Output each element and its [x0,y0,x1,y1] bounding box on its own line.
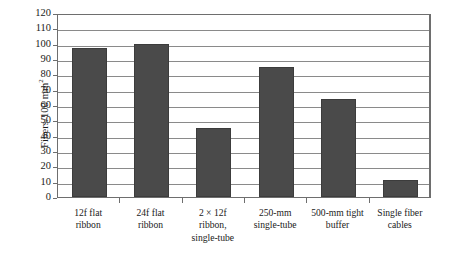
gridline [58,168,429,169]
x-tick-mark [306,198,307,203]
y-tick-mark [53,121,57,122]
y-tick-mark [53,106,57,107]
x-tick-mark [119,198,120,203]
x-tick-label: 250-mm single-tube [244,207,306,232]
y-tick-label: 100 [11,39,51,50]
y-tick-mark [53,75,57,76]
y-tick-mark [53,45,57,46]
y-tick-label: 30 [11,146,51,157]
y-tick-mark [53,152,57,153]
y-tick-mark [53,91,57,92]
y-tick-label: 120 [11,8,51,19]
y-tick-mark [53,183,57,184]
gridline [58,46,429,47]
y-tick-mark [53,60,57,61]
x-tick-mark [244,198,245,203]
plot-area [57,14,431,198]
x-tick-label: 500-mm tight buffer [306,207,368,232]
gridline [58,76,429,77]
y-tick-label: 60 [11,100,51,111]
bar [72,48,107,197]
y-tick-mark [53,29,57,30]
gridline [58,184,429,185]
x-tick-mark [182,198,183,203]
bar [196,128,231,197]
bar-chart-figure: Fibers/100 mm2 0102030405060708090100110… [0,0,452,272]
y-tick-label: 0 [11,192,51,203]
x-tick-label: Single fiber cables [369,207,431,232]
y-tick-mark [53,137,57,138]
gridline [58,107,429,108]
y-tick-mark [53,198,57,199]
y-tick-label: 40 [11,131,51,142]
y-tick-mark [53,14,57,15]
x-tick-label: 2 × 12f ribbon, single-tube [182,207,244,244]
gridline [58,92,429,93]
x-tick-mark [369,198,370,203]
gridline [58,138,429,139]
y-tick-mark [53,167,57,168]
bar [383,180,418,197]
y-tick-label: 90 [11,54,51,65]
gridline [58,30,429,31]
bar [321,99,356,197]
y-tick-label: 70 [11,85,51,96]
x-tick-label: 12f flat ribbon [57,207,119,232]
y-tick-label: 10 [11,177,51,188]
y-tick-label: 20 [11,161,51,172]
bar [259,67,294,197]
gridline [58,122,429,123]
y-tick-label: 110 [11,23,51,34]
gridline [58,61,429,62]
y-tick-label: 50 [11,115,51,126]
x-tick-label: 24f flat ribbon [119,207,181,232]
gridline [58,153,429,154]
bar [134,44,169,197]
y-tick-label: 80 [11,69,51,80]
